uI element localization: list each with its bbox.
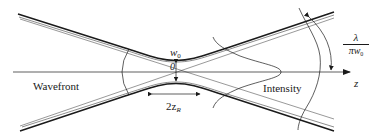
wavefront-label: Wavefront bbox=[33, 81, 79, 92]
waist-label-sub: 0 bbox=[177, 52, 181, 60]
rayleigh-label-sub: R bbox=[176, 106, 180, 114]
z-axis-label: z bbox=[354, 78, 358, 89]
divergence-den-sub: 0 bbox=[360, 51, 363, 57]
divergence-angle-label: λ πw0 bbox=[343, 32, 369, 57]
divergence-denominator: πw0 bbox=[343, 46, 369, 57]
gaussian-beam-diagram: Wavefront Intensity z 0 w0 2zR λ πw0 bbox=[0, 0, 372, 135]
rayleigh-range-label: 2zR bbox=[166, 101, 181, 114]
divergence-den-main: πw bbox=[349, 45, 361, 56]
rayleigh-label-main: 2z bbox=[166, 100, 176, 112]
divergence-numerator: λ bbox=[343, 32, 369, 44]
intensity-profile bbox=[213, 37, 281, 108]
origin-label: 0 bbox=[170, 62, 175, 72]
beam-drawing bbox=[0, 0, 372, 135]
intensity-label: Intensity bbox=[263, 83, 302, 94]
waist-label: w0 bbox=[170, 47, 181, 60]
